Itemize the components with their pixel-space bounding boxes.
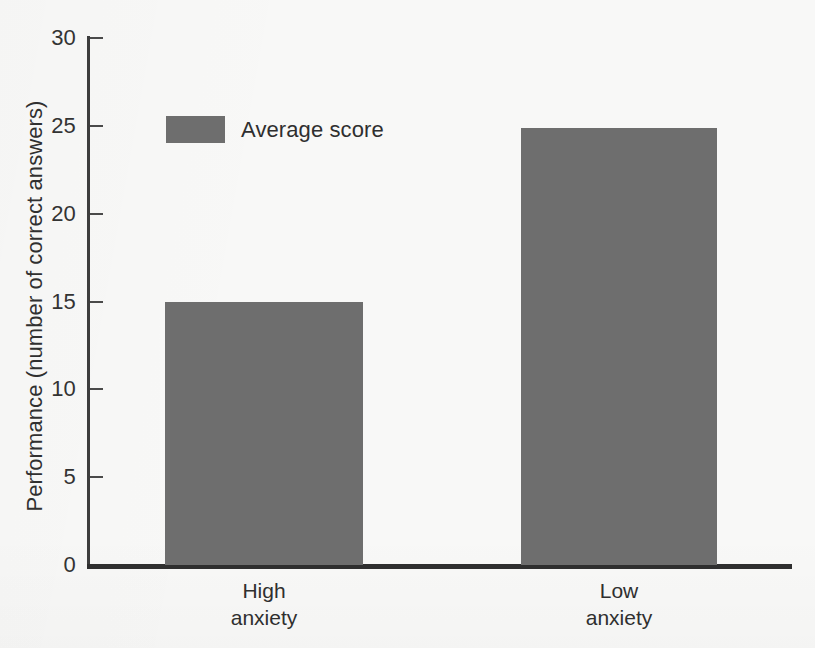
- y-axis-tick: [90, 476, 103, 478]
- x-axis-category-label: High anxiety: [105, 578, 423, 632]
- y-axis-tick: [90, 388, 103, 390]
- legend-label-average-score: Average score: [241, 117, 384, 143]
- y-axis-tick-label: 15: [28, 291, 76, 313]
- bar-chart: Performance (number of correct answers) …: [0, 0, 815, 648]
- bar: [521, 128, 717, 565]
- y-axis-tick-label: 10: [28, 378, 76, 400]
- y-axis-tick: [90, 125, 103, 127]
- y-axis-tick: [90, 301, 103, 303]
- bar: [165, 302, 363, 566]
- y-axis-tick-label: 25: [28, 115, 76, 137]
- x-axis-category-label: Low anxiety: [461, 578, 777, 632]
- y-axis-tick: [90, 213, 103, 215]
- y-axis-tick-label: 30: [28, 27, 76, 49]
- y-axis-tick-label: 0: [28, 554, 76, 576]
- y-axis-tick: [90, 37, 103, 39]
- legend-swatch-average-score: [166, 116, 225, 143]
- y-axis-tick-label: 20: [28, 203, 76, 225]
- legend: Average score: [166, 116, 384, 143]
- y-axis-tick-label: 5: [28, 466, 76, 488]
